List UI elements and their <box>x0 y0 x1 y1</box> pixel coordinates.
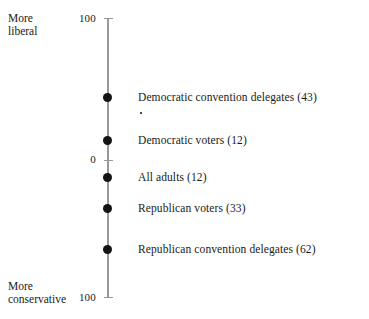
data-point-label: Democratic voters (12) <box>138 134 247 146</box>
data-point <box>103 93 112 102</box>
data-point-label: Republican voters (33) <box>138 202 246 214</box>
axis-tick-label-top: 100 <box>62 13 96 24</box>
data-point <box>103 204 112 213</box>
ideology-scale-chart: 100 More liberal 0 100 More conservative… <box>0 0 369 319</box>
data-point <box>103 173 112 182</box>
stray-speck-mark <box>140 112 142 114</box>
axis-tick-zero <box>104 160 113 161</box>
data-point <box>103 245 112 254</box>
data-point-label: Democratic convention delegates (43) <box>138 91 317 103</box>
data-point-label: All adults (12) <box>138 171 207 183</box>
data-point <box>103 136 112 145</box>
pole-label-conservative: More conservative <box>8 280 90 305</box>
pole-label-liberal: More liberal <box>8 12 62 37</box>
axis-tick-label-zero: 0 <box>62 154 96 165</box>
data-point-label: Republican convention delegates (62) <box>138 243 316 255</box>
axis-tick-top <box>104 18 113 19</box>
axis-tick-bottom <box>104 297 113 298</box>
vertical-axis-line <box>107 18 109 298</box>
